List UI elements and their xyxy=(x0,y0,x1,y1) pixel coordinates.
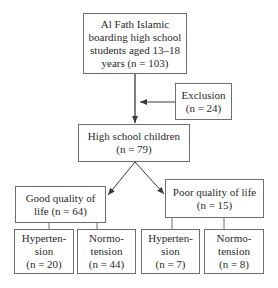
good-hypertension-box: Hyperten- sion (n = 20) xyxy=(14,229,74,274)
root-line-1: Al Fath Islamic xyxy=(101,18,169,31)
poor-normotension-box: Normo- tension (n = 8) xyxy=(204,229,264,274)
high-school-line-2: (n = 79) xyxy=(116,143,152,156)
poor-hypertension-box: Hyperten- sion (n = 7) xyxy=(141,229,200,274)
arrow-to-good-qol xyxy=(108,162,135,195)
poor-hyper-line-1: Hyperten- xyxy=(148,232,193,245)
poor-normo-line-1: Normo- xyxy=(217,232,252,245)
good-hyper-line-3: (n = 20) xyxy=(26,258,62,271)
poor-normo-line-3: (n = 8) xyxy=(219,258,249,271)
poor-qol-line-2: (n = 15) xyxy=(197,199,233,212)
poor-qol-line-1: Poor quality of life xyxy=(173,186,256,199)
root-box: Al Fath Islamic boarding high school stu… xyxy=(83,13,187,74)
good-qol-line-1: Good quality of xyxy=(26,192,96,205)
good-qol-box: Good quality of life (n = 64) xyxy=(15,186,106,223)
good-hyper-line-2: sion xyxy=(35,245,53,258)
high-school-box: High school children (n = 79) xyxy=(78,124,190,162)
good-normotension-box: Normo- tension (n = 44) xyxy=(77,229,136,274)
good-hyper-line-1: Hyperten- xyxy=(22,232,67,245)
root-line-3: students aged 13–18 xyxy=(90,44,180,57)
exclusion-box: Exclusion (n = 24) xyxy=(175,83,232,120)
poor-hyper-line-3: (n = 7) xyxy=(155,258,185,271)
high-school-line-1: High school children xyxy=(88,130,180,143)
good-normo-line-3: (n = 44) xyxy=(89,258,125,271)
good-normo-line-1: Normo- xyxy=(89,232,124,245)
poor-qol-box: Poor quality of life (n = 15) xyxy=(165,179,264,218)
root-line-4: years (n = 103) xyxy=(102,57,169,70)
poor-normo-line-2: tension xyxy=(218,245,250,258)
good-normo-line-2: tension xyxy=(91,245,123,258)
arrow-to-poor-qol xyxy=(135,162,164,194)
good-qol-line-2: life (n = 64) xyxy=(34,205,87,218)
exclusion-line-2: (n = 24) xyxy=(186,102,222,115)
poor-hyper-line-2: sion xyxy=(161,245,179,258)
root-line-2: boarding high school xyxy=(89,31,182,44)
exclusion-line-1: Exclusion xyxy=(182,89,226,102)
